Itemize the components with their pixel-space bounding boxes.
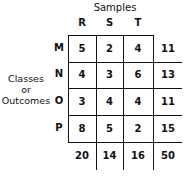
row-divider-1 (68, 62, 182, 63)
row-label-m: M (52, 42, 66, 53)
column-divider-left (68, 35, 69, 143)
cell-p-t: 2 (123, 123, 153, 134)
row-label-p: P (52, 122, 66, 133)
column-header-t: T (123, 17, 153, 28)
column-total-t: 16 (123, 150, 153, 161)
column-divider-3 (153, 35, 154, 170)
row-divider-4 (68, 142, 182, 143)
row-total-o: 11 (153, 96, 183, 107)
cell-o-t: 4 (123, 96, 153, 107)
row-group-label-line-1: Classes (0, 73, 52, 84)
row-label-o: O (52, 95, 66, 106)
row-total-p: 15 (153, 123, 183, 134)
cell-n-s: 3 (96, 69, 123, 80)
table-top-border (68, 35, 154, 36)
grand-total: 50 (153, 150, 183, 161)
cell-m-t: 4 (123, 43, 153, 54)
row-total-n: 13 (153, 69, 183, 80)
row-divider-3 (68, 115, 182, 116)
column-group-label: Samples (80, 2, 150, 13)
row-group-label-line-3: Outcomes (0, 95, 52, 106)
column-divider-2 (123, 35, 124, 170)
column-header-s: S (96, 17, 123, 28)
cell-p-r: 8 (68, 123, 96, 134)
cell-o-s: 4 (96, 96, 123, 107)
cell-m-r: 5 (68, 43, 96, 54)
row-label-n: N (52, 68, 66, 79)
cell-o-r: 3 (68, 96, 96, 107)
cell-n-t: 6 (123, 69, 153, 80)
cell-p-s: 5 (96, 123, 123, 134)
row-group-label: Classes or Outcomes (0, 73, 52, 106)
cell-m-s: 2 (96, 43, 123, 54)
column-total-s: 14 (96, 150, 123, 161)
column-header-r: R (68, 17, 96, 28)
column-divider-1 (96, 35, 97, 170)
cell-n-r: 4 (68, 69, 96, 80)
row-divider-2 (68, 88, 182, 89)
column-total-r: 20 (68, 150, 96, 161)
row-total-m: 11 (153, 43, 183, 54)
row-group-label-line-2: or (0, 84, 52, 95)
